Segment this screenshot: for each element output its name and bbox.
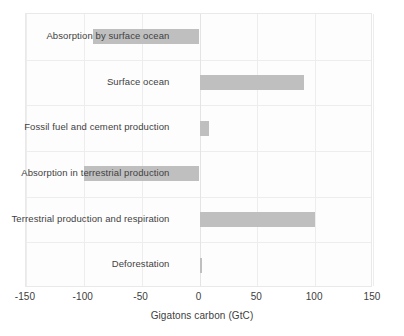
category-label: Absorption by surface ocean: [0, 30, 170, 41]
gridline-horizontal: [26, 151, 371, 152]
x-tick-label: -100: [61, 291, 105, 302]
plot-area: [25, 13, 372, 287]
x-tick-label: 150: [350, 291, 394, 302]
gridline-horizontal: [26, 60, 371, 61]
bar: [200, 212, 316, 227]
gridline-horizontal: [26, 105, 371, 106]
gridline-horizontal: [26, 242, 371, 243]
gridline-vertical: [373, 14, 374, 286]
gridline-vertical: [84, 14, 85, 286]
carbon-flux-bar-chart: -150-100-50050100150 Gigatons carbon (Gt…: [0, 0, 404, 336]
x-tick-label: 100: [292, 291, 336, 302]
x-tick-label: -150: [3, 291, 47, 302]
x-tick-label: 50: [234, 291, 278, 302]
gridline-vertical: [142, 14, 143, 286]
gridline-vertical: [315, 14, 316, 286]
x-tick-label: -50: [119, 291, 163, 302]
bar: [200, 75, 304, 90]
category-label: Absorption in terrestrial production: [0, 167, 170, 178]
x-axis-title: Gigatons carbon (GtC): [0, 310, 404, 321]
category-label: Terrestrial production and respiration: [0, 213, 170, 224]
zero-axis-line: [200, 14, 201, 286]
gridline-vertical: [257, 14, 258, 286]
category-label: Deforestation: [0, 258, 170, 269]
category-label: Fossil fuel and cement production: [0, 121, 170, 132]
bar: [200, 258, 202, 273]
gridline-vertical: [26, 14, 27, 286]
gridline-horizontal: [26, 197, 371, 198]
category-label: Surface ocean: [0, 76, 170, 87]
bar: [200, 121, 209, 136]
x-tick-label: 0: [177, 291, 221, 302]
